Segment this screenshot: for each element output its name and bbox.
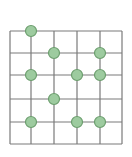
grid-nodes xyxy=(26,26,106,128)
grid-node-circle xyxy=(49,48,60,59)
grid-node-circle xyxy=(72,117,83,128)
grid-node-circle xyxy=(26,70,37,81)
grid-node-circle xyxy=(26,26,37,37)
grid-node-circle xyxy=(95,48,106,59)
grid-node-circle xyxy=(49,94,60,105)
grid-diagram xyxy=(0,0,132,157)
grid-node-circle xyxy=(95,117,106,128)
grid-node-circle xyxy=(72,70,83,81)
grid-lines xyxy=(10,31,122,144)
grid-node-circle xyxy=(26,117,37,128)
grid-node-circle xyxy=(95,70,106,81)
